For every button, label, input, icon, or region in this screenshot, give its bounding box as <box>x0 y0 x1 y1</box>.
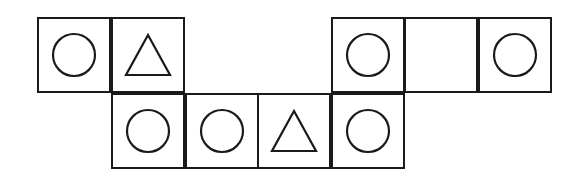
grid-cell-circle-r0c4[interactable] <box>331 17 405 93</box>
shape-grid-figure <box>0 0 576 182</box>
triangle-icon <box>123 32 173 78</box>
grid-cell-circle-r1c2[interactable] <box>185 93 259 169</box>
circle-icon <box>50 31 98 79</box>
circle-icon <box>344 107 392 155</box>
grid-cell-circle-r0c0[interactable] <box>37 17 111 93</box>
triangle-icon <box>269 108 319 154</box>
grid-cell-circle-r1c1[interactable] <box>111 93 185 169</box>
grid-cell-circle-r1c4[interactable] <box>331 93 405 169</box>
grid-cell-triangle-r1c3[interactable] <box>257 93 331 169</box>
circle-icon <box>198 107 246 155</box>
grid-cell-empty-r0c5[interactable] <box>404 17 478 93</box>
grid-cell-circle-r0c6[interactable] <box>478 17 552 93</box>
grid-cell-triangle-r0c1[interactable] <box>111 17 185 93</box>
circle-icon <box>344 31 392 79</box>
circle-icon <box>491 31 539 79</box>
circle-icon <box>124 107 172 155</box>
